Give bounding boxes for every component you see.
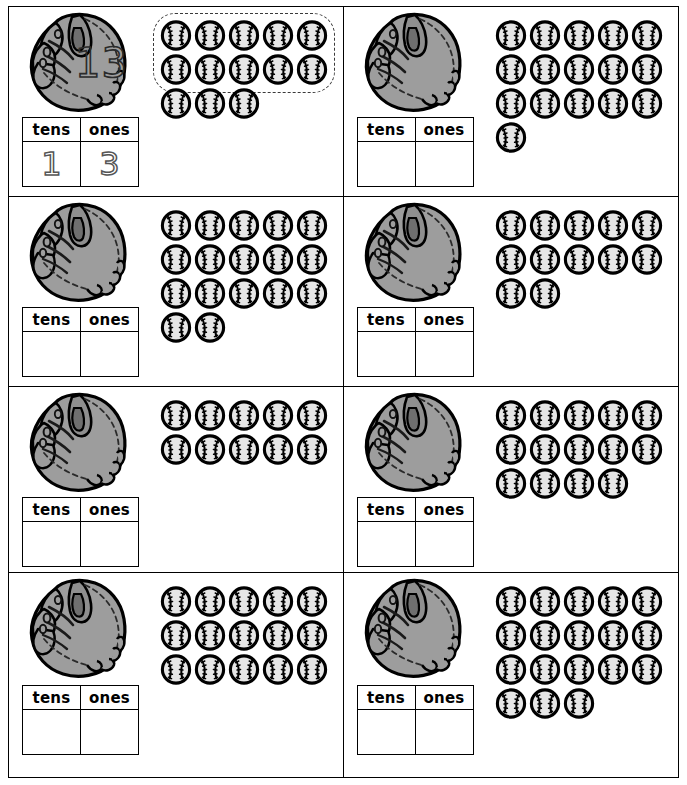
baseball-icon xyxy=(596,209,630,242)
baseball-icon xyxy=(528,209,562,242)
baseball-group-6 xyxy=(494,399,675,501)
baseball-row-1 xyxy=(494,209,675,242)
baseball-icon xyxy=(562,19,596,52)
ones-header: ones xyxy=(81,118,139,142)
baseball-icon xyxy=(193,653,227,686)
baseball-group-5 xyxy=(159,399,339,467)
baseball-icon xyxy=(295,399,329,432)
baseball-icon xyxy=(596,433,630,466)
baseball-icon xyxy=(494,399,528,432)
baseball-icon xyxy=(630,585,664,618)
baseball-icon xyxy=(193,87,227,120)
baseball-icon xyxy=(159,399,193,432)
baseball-icon xyxy=(159,53,193,86)
ones-answer-cell-1[interactable]: 3 xyxy=(81,142,139,187)
ones-answer-cell-8[interactable] xyxy=(415,710,473,755)
baseball-icon xyxy=(596,653,630,686)
baseball-icon xyxy=(596,399,630,432)
baseball-icon xyxy=(295,585,329,618)
problem-cell-6: tens ones xyxy=(344,387,679,573)
baseball-row-3 xyxy=(159,653,339,686)
baseball-icon xyxy=(528,687,562,720)
baseball-icon xyxy=(227,399,261,432)
baseball-icon xyxy=(494,87,528,120)
baseball-icon xyxy=(295,19,329,52)
baseball-icon xyxy=(227,619,261,652)
tens-answer-cell-8[interactable] xyxy=(357,710,415,755)
tens-header: tens xyxy=(357,686,415,710)
baseball-row-2 xyxy=(494,619,675,652)
baseball-group-3 xyxy=(159,209,339,345)
baseball-icon xyxy=(159,87,193,120)
baseball-icon xyxy=(562,209,596,242)
baseball-icon xyxy=(562,687,596,720)
baseball-icon xyxy=(528,653,562,686)
baseball-icon xyxy=(562,87,596,120)
tens-answer-cell-2[interactable] xyxy=(357,142,415,187)
baseball-row-1 xyxy=(494,19,675,52)
problem-cell-3: tens ones xyxy=(9,197,344,387)
baseball-icon xyxy=(227,433,261,466)
ones-answer-cell-5[interactable] xyxy=(81,522,139,567)
baseball-icon xyxy=(193,209,227,242)
baseball-glove-icon xyxy=(360,11,466,115)
baseball-glove-icon xyxy=(25,577,131,681)
baseball-icon xyxy=(596,53,630,86)
tens-answer-cell-1[interactable]: 1 xyxy=(23,142,81,187)
tens-answer-cell-7[interactable] xyxy=(23,710,81,755)
baseball-icon xyxy=(596,243,630,276)
tens-answer-cell-3[interactable] xyxy=(23,332,81,377)
baseball-icon xyxy=(562,653,596,686)
tens-answer-cell-5[interactable] xyxy=(23,522,81,567)
baseball-icon xyxy=(193,19,227,52)
ones-answer-cell-3[interactable] xyxy=(81,332,139,377)
baseball-icon xyxy=(261,653,295,686)
baseball-glove-icon xyxy=(25,201,131,305)
problem-grid: 13 tens ones 1 3 xyxy=(9,7,678,777)
baseball-icon xyxy=(261,399,295,432)
place-value-table-5: tens ones xyxy=(22,497,139,567)
ones-header: ones xyxy=(415,498,473,522)
baseball-icon xyxy=(596,619,630,652)
tens-header: tens xyxy=(357,498,415,522)
ones-answer-cell-4[interactable] xyxy=(415,332,473,377)
baseball-icon xyxy=(630,619,664,652)
baseball-icon xyxy=(295,619,329,652)
baseball-icon xyxy=(494,653,528,686)
baseball-icon xyxy=(528,433,562,466)
baseball-glove-icon xyxy=(360,577,466,681)
worksheet-outer-border: 13 tens ones 1 3 xyxy=(8,6,679,778)
baseball-row-1 xyxy=(159,585,339,618)
baseball-icon xyxy=(494,209,528,242)
problem-cell-5: tens ones xyxy=(9,387,344,573)
ones-answer-cell-2[interactable] xyxy=(415,142,473,187)
tens-answer-cell-6[interactable] xyxy=(357,522,415,567)
baseball-icon xyxy=(528,467,562,500)
baseball-icon xyxy=(494,53,528,86)
baseball-icon xyxy=(193,311,227,344)
baseball-icon xyxy=(528,53,562,86)
baseball-icon xyxy=(193,243,227,276)
tens-header: tens xyxy=(357,308,415,332)
ones-answer-cell-7[interactable] xyxy=(81,710,139,755)
baseball-row-2 xyxy=(494,53,675,86)
baseball-row-3 xyxy=(494,277,675,310)
baseball-group-7 xyxy=(159,585,339,687)
baseball-row-1 xyxy=(159,399,339,432)
baseball-row-3 xyxy=(494,467,675,500)
baseball-row-3 xyxy=(494,653,675,686)
baseball-row-1 xyxy=(494,585,675,618)
baseball-icon xyxy=(261,277,295,310)
baseball-icon xyxy=(227,87,261,120)
baseball-icon xyxy=(227,209,261,242)
place-value-table-4: tens ones xyxy=(357,307,474,377)
problem-cell-1: 13 tens ones 1 3 xyxy=(9,7,344,197)
baseball-row-1 xyxy=(159,19,339,52)
baseball-icon xyxy=(562,243,596,276)
baseball-group-1 xyxy=(159,19,339,121)
baseball-glove-icon xyxy=(360,201,466,305)
baseball-icon xyxy=(193,399,227,432)
baseball-group-4 xyxy=(494,209,675,311)
ones-answer-cell-6[interactable] xyxy=(415,522,473,567)
tens-answer-cell-4[interactable] xyxy=(357,332,415,377)
